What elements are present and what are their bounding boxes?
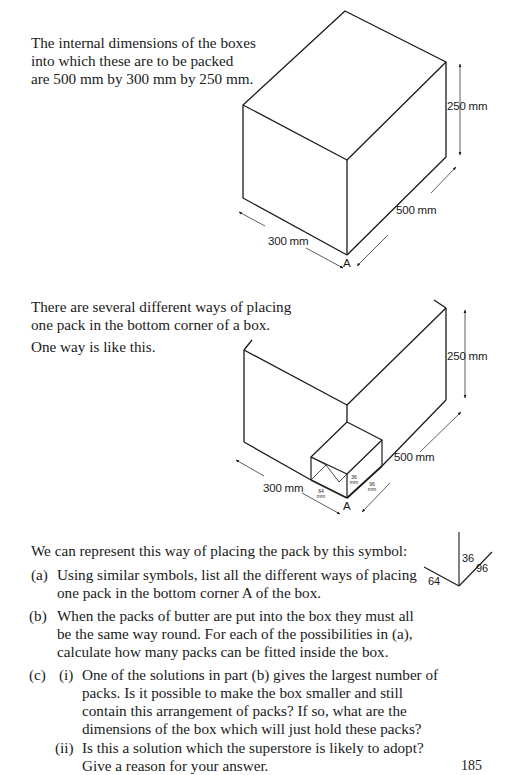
placing-line-1: There are several different ways of plac… xyxy=(31,298,291,316)
question-a-line-1: Using similar symbols, list all the diff… xyxy=(57,566,417,584)
question-b-line-1: When the packs of butter are put into th… xyxy=(57,607,414,625)
question-b-line-2: be the same way round. For each of the p… xyxy=(57,625,413,643)
diagram2-length-label: 500 mm xyxy=(394,451,434,463)
one-way-text: One way is like this. xyxy=(31,338,155,356)
question-c-i-line-3: contain this arrangement of packs? If so… xyxy=(82,702,407,720)
diagram2-height-label: 250 mm xyxy=(447,350,487,362)
box-diagram-1 xyxy=(243,11,446,255)
placing-line-2: one pack in the bottom corner of a box. xyxy=(31,316,270,334)
question-a-marker: (a) xyxy=(31,566,48,584)
question-b-marker: (b) xyxy=(29,607,47,625)
pack-height-label: 36 mm xyxy=(348,475,360,485)
symbol-right-label: 96 xyxy=(476,562,488,574)
intro-line-1: The internal dimensions of the boxes xyxy=(31,34,256,52)
question-c-ii-line-2: Give a reason for your answer. xyxy=(82,757,268,775)
diagram1-corner-label: A xyxy=(343,257,350,269)
question-c-i-line-2: packs. Is it possible to make the box sm… xyxy=(82,684,403,702)
question-c-i-line-4: dimensions of the box which will just ho… xyxy=(82,720,422,738)
question-c-i-marker: (i) xyxy=(59,666,73,684)
page-number: 185 xyxy=(461,757,482,775)
question-c-i-line-1: One of the solutions in part (b) gives t… xyxy=(82,666,438,684)
question-c-marker: (c) xyxy=(29,666,46,684)
question-a-line-2: one pack in the bottom corner A of the b… xyxy=(57,584,321,602)
symbol-up-label: 36 xyxy=(462,552,474,564)
diagram1-height-label: 250 mm xyxy=(447,100,487,112)
diagram1-width-label: 300 mm xyxy=(268,235,308,247)
intro-line-2: into which these are to be packed xyxy=(31,52,233,70)
question-c-ii-line-1: Is this a solution which the superstore … xyxy=(82,739,424,757)
question-c-ii-marker: (ii) xyxy=(55,739,74,757)
question-b-line-3: calculate how many packs can be fitted i… xyxy=(57,643,388,661)
pack-width-label: 64 mm xyxy=(315,489,327,499)
diagram1-length-label: 500 mm xyxy=(396,204,436,216)
pack-length-label: 96 mm xyxy=(366,482,378,492)
intro-line-3: are 500 mm by 300 mm by 250 mm. xyxy=(31,70,253,88)
diagram2-corner-label: A xyxy=(343,500,350,512)
symbol-left-label: 64 xyxy=(428,575,440,587)
diagram2-width-label: 300 mm xyxy=(263,482,303,494)
symbol-intro-text: We can represent this way of placing the… xyxy=(31,542,407,560)
